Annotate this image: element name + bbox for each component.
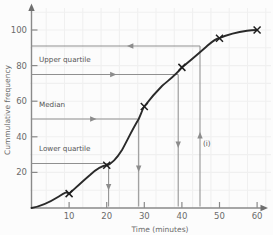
y-tick-label-20: 20 bbox=[16, 167, 27, 177]
chart-canvas: 10 20 30 40 50 60 20 40 60 80 100 Time (… bbox=[0, 0, 273, 235]
median-label: Median bbox=[39, 100, 65, 109]
x-tick-label-30: 30 bbox=[139, 211, 150, 221]
y-tick-label-100: 100 bbox=[11, 25, 27, 35]
cumulative-frequency-chart: 10 20 30 40 50 60 20 40 60 80 100 Time (… bbox=[0, 0, 273, 235]
x-axis-title: Time (minutes) bbox=[131, 225, 189, 234]
x-tick-label-50: 50 bbox=[214, 211, 225, 221]
x-tick-label-60: 60 bbox=[252, 211, 263, 221]
upper-quartile-label: Upper quartile bbox=[39, 55, 91, 64]
reading-i-label: (i) bbox=[203, 139, 211, 148]
y-tick-label-80: 80 bbox=[16, 61, 27, 71]
chart-background bbox=[0, 0, 273, 235]
y-tick-label-60: 60 bbox=[16, 96, 27, 106]
y-tick-label-40: 40 bbox=[16, 132, 27, 142]
x-tick-label-10: 10 bbox=[64, 211, 75, 221]
lower-quartile-label: Lower quartile bbox=[39, 144, 91, 153]
x-tick-label-40: 40 bbox=[176, 211, 187, 221]
y-axis-title: Cummulative frequency bbox=[3, 64, 12, 155]
x-tick-label-20: 20 bbox=[101, 211, 112, 221]
